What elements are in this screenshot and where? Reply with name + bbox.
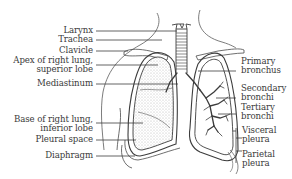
right-lung — [128, 53, 177, 156]
label-clavicle-text: Clavicle — [59, 46, 93, 55]
label-parietal-line2: pleura — [242, 159, 275, 168]
label-tertiary-bronchi: Tertiary bronchi — [241, 103, 275, 121]
label-base-right-lung: Base of right lung, inferior lobe — [14, 115, 93, 133]
label-visceral-pleura: Visceral pleura — [242, 126, 276, 144]
label-primary-bronchus: Primary bronchus — [241, 57, 281, 75]
clavicles — [124, 49, 244, 60]
label-base-line2: inferior lobe — [14, 124, 93, 133]
label-pleural-space-text: Pleural space — [36, 135, 94, 144]
label-mediastinum-text: Mediastinum — [37, 79, 93, 88]
label-diaphragm-text: Diaphragm — [45, 151, 93, 160]
label-parietal-pleura: Parietal pleura — [242, 150, 275, 168]
label-secondary-line2: bronchi — [241, 93, 286, 102]
label-trachea: Trachea — [58, 35, 93, 44]
label-primary-line2: bronchus — [241, 66, 281, 75]
label-clavicle: Clavicle — [59, 46, 93, 55]
label-secondary-bronchi: Secondary bronchi — [241, 84, 286, 102]
label-visceral-line2: pleura — [242, 135, 276, 144]
label-diaphragm: Diaphragm — [45, 151, 93, 160]
label-apex-line2: superior lobe — [13, 65, 93, 74]
label-mediastinum: Mediastinum — [37, 79, 93, 88]
label-apex-right-lung: Apex of right lung, superior lobe — [13, 56, 93, 74]
label-trachea-text: Trachea — [58, 35, 93, 44]
lung-anatomy-diagram: Larynx Trachea Clavicle Apex of right lu… — [0, 0, 292, 179]
label-pleural-space: Pleural space — [36, 135, 94, 144]
label-tertiary-line2: bronchi — [241, 112, 275, 121]
